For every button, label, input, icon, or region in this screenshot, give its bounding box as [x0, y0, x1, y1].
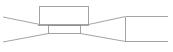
line-diagram: [0, 0, 173, 52]
right-upper-line: [89, 17, 126, 25]
left-lower-line: [3, 34, 49, 43]
left-upper-line: [3, 17, 40, 25]
top-box: [40, 7, 89, 25]
diagram-canvas: [0, 0, 173, 52]
bottom-box: [49, 26, 81, 34]
right-lower-line: [81, 34, 126, 42]
